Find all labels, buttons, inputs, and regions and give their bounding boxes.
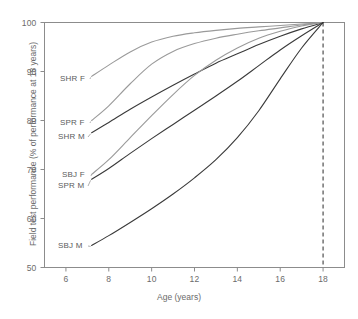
series-label-sbj-m: SBJ M: [58, 241, 83, 250]
y-axis-ticks: [41, 23, 45, 268]
series-label-shr-f: SHR F: [60, 74, 85, 83]
x-tick-label: 14: [217, 274, 257, 284]
x-tick-label: 8: [89, 274, 129, 284]
y-tick-label: 50: [1, 263, 37, 273]
y-axis-title: Field test performance (% of performance…: [28, 46, 38, 246]
x-tick-label: 12: [175, 274, 215, 284]
series-label-sbj-f: SBJ F: [62, 170, 85, 179]
series-label-shr-m: SHR M: [58, 132, 85, 141]
x-axis-title: Age (years): [0, 292, 358, 302]
plot-border: [45, 23, 345, 268]
chart-figure: 6810121416185060708090100 SHR FSPR FSHR …: [0, 0, 358, 319]
y-tick-label: 100: [1, 18, 37, 28]
x-tick-label: 16: [260, 274, 300, 284]
x-axis-ticks: [66, 268, 323, 272]
series-label-spr-f: SPR F: [60, 118, 85, 127]
x-tick-label: 6: [46, 274, 86, 284]
series-label-spr-m: SPR M: [58, 181, 84, 190]
line-chart-plot-area: [0, 0, 358, 319]
x-tick-label: 10: [132, 274, 172, 284]
x-tick-label: 18: [303, 274, 343, 284]
